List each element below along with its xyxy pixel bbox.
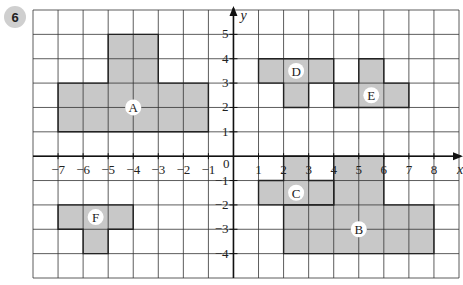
x-tick-label: 3	[305, 162, 312, 177]
y-axis-arrow-icon	[229, 6, 237, 16]
y-tick-label: 5	[222, 26, 229, 41]
y-tick-label: −3	[215, 221, 229, 236]
shape-label: D	[291, 64, 300, 79]
x-axis-label: x	[456, 162, 463, 177]
shape-label: C	[292, 186, 301, 201]
x-tick-label: 1	[255, 162, 262, 177]
x-tick-label: 6	[381, 162, 388, 177]
x-tick-label: −5	[101, 162, 115, 177]
x-tick-label: 7	[406, 162, 413, 177]
shape-label: B	[354, 222, 363, 237]
x-tick-label: 5	[356, 162, 363, 177]
coordinate-grid: −7−6−5−4−3−2−11234567854321−1−2−3−40xyAB…	[0, 0, 463, 285]
shape-label: A	[129, 100, 139, 115]
shape-label: F	[92, 210, 99, 225]
x-tick-label: −1	[201, 162, 215, 177]
y-tick-label: −1	[215, 173, 229, 188]
x-tick-label: −6	[76, 162, 90, 177]
y-axis-label: y	[238, 8, 247, 23]
x-tick-label: 8	[431, 162, 438, 177]
y-tick-label: 3	[222, 75, 229, 90]
y-tick-label: 1	[222, 124, 229, 139]
y-tick-label: −2	[215, 197, 229, 212]
x-axis-arrow-icon	[453, 152, 463, 160]
x-tick-label: −7	[51, 162, 65, 177]
shape-label: E	[367, 88, 375, 103]
x-tick-label: 2	[280, 162, 287, 177]
y-tick-label: −4	[215, 246, 229, 261]
y-tick-label: 4	[222, 51, 229, 66]
y-tick-label: 2	[222, 99, 229, 114]
origin-label: 0	[223, 156, 230, 171]
x-tick-label: 4	[330, 162, 337, 177]
x-tick-label: −3	[151, 162, 165, 177]
x-tick-label: −2	[176, 162, 190, 177]
x-tick-label: −4	[126, 162, 140, 177]
